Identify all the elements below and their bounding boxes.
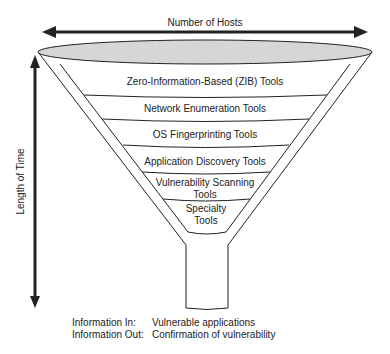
- layer-application-discovery: Application Discovery Tools: [135, 156, 275, 168]
- info-out-value: Confirmation of vulnerability: [152, 329, 275, 340]
- info-block: Information In:Vulnerable applications I…: [72, 317, 275, 341]
- time-arrow: [30, 55, 40, 308]
- layer-zib: Zero-Information-Based (ZIB) Tools: [90, 76, 320, 88]
- hosts-axis-label: Number of Hosts: [150, 17, 260, 28]
- info-in-value: Vulnerable applications: [152, 317, 255, 328]
- time-axis-label: Length of Time: [15, 142, 26, 222]
- layer-os-fingerprinting: OS Fingerprinting Tools: [130, 129, 280, 141]
- info-out-key: Information Out:: [72, 329, 152, 341]
- layer-specialty: Specialty Tools: [178, 203, 234, 227]
- layer-vulnerability-scanning: Vulnerability Scanning Tools: [150, 177, 260, 201]
- info-in-key: Information In:: [72, 317, 152, 329]
- layer-network-enumeration: Network Enumeration Tools: [110, 103, 300, 115]
